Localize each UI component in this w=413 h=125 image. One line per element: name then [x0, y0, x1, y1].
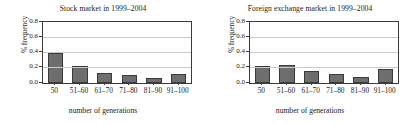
- bar: [171, 74, 186, 83]
- y-tick-label: 0.2: [0, 63, 38, 70]
- x-tick-mark: [153, 82, 154, 85]
- y-tick-label: 0.6: [0, 33, 38, 40]
- x-tick-mark: [311, 82, 312, 85]
- gridline: [43, 67, 191, 68]
- chart-title: Stock market in 1999–2004: [0, 4, 206, 13]
- x-tick-mark: [261, 82, 262, 85]
- y-tick-label: 0.0: [207, 79, 245, 86]
- x-axis-label: number of generations: [207, 106, 413, 115]
- y-tick-mark: [246, 82, 249, 83]
- y-tick-label: 0.0: [0, 79, 38, 86]
- x-tick-mark: [178, 82, 179, 85]
- y-tick-label: 0.2: [207, 63, 245, 70]
- gridline: [250, 52, 398, 53]
- y-tick-label: 0.4: [0, 48, 38, 55]
- y-tick-label: 0.6: [207, 33, 245, 40]
- x-tick-label: 91–100: [161, 87, 194, 95]
- x-tick-mark: [54, 82, 55, 85]
- bar: [72, 66, 87, 83]
- chart-panel-stock-market: Stock market in 1999–2004 % frequency nu…: [0, 0, 206, 125]
- chart-title: Foreign exchange market in 1999–2004: [207, 4, 413, 13]
- x-tick-mark: [335, 82, 336, 85]
- x-tick-mark: [286, 82, 287, 85]
- x-tick-label: 91–100: [368, 87, 401, 95]
- y-tick-label: 0.8: [0, 18, 38, 25]
- gridline: [250, 37, 398, 38]
- y-tick-mark: [39, 66, 42, 67]
- x-tick-mark: [79, 82, 80, 85]
- gridline: [43, 37, 191, 38]
- figure-container: Stock market in 1999–2004 % frequency nu…: [0, 0, 413, 125]
- y-tick-mark: [246, 51, 249, 52]
- x-tick-mark: [104, 82, 105, 85]
- y-tick-mark: [39, 36, 42, 37]
- y-tick-mark: [39, 21, 42, 22]
- bar: [304, 71, 319, 83]
- y-tick-mark: [246, 36, 249, 37]
- bar: [255, 66, 270, 83]
- plot-area-0: [42, 21, 192, 84]
- y-tick-mark: [246, 66, 249, 67]
- bar: [378, 69, 393, 83]
- gridline: [43, 52, 191, 53]
- x-axis-label: number of generations: [0, 106, 206, 115]
- gridline: [250, 67, 398, 68]
- y-tick-mark: [39, 82, 42, 83]
- y-tick-mark: [246, 21, 249, 22]
- x-tick-mark: [360, 82, 361, 85]
- y-tick-label: 0.8: [207, 18, 245, 25]
- x-tick-mark: [128, 82, 129, 85]
- y-tick-mark: [39, 51, 42, 52]
- chart-panel-foreign-exchange-market: Foreign exchange market in 1999–2004 % f…: [207, 0, 413, 125]
- x-tick-mark: [385, 82, 386, 85]
- plot-area-1: [249, 21, 399, 84]
- y-tick-label: 0.4: [207, 48, 245, 55]
- bar: [97, 73, 112, 83]
